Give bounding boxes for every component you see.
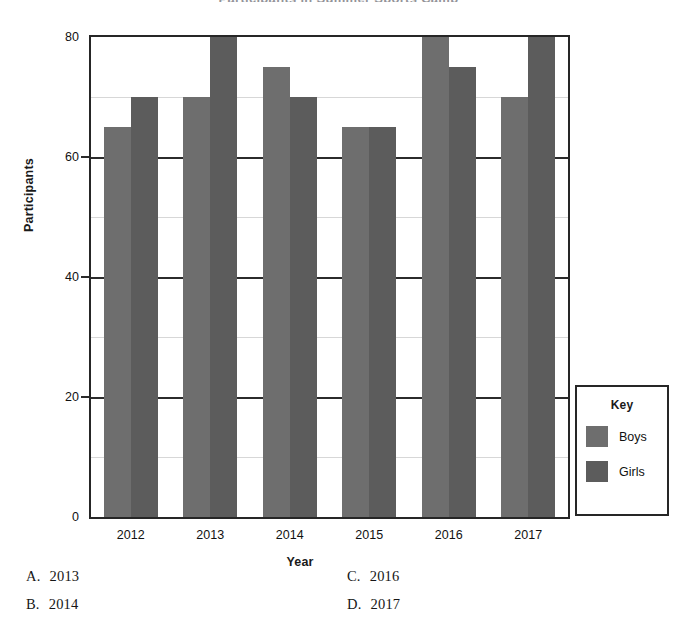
y-tick-mark bbox=[81, 396, 89, 398]
answer-option-b[interactable]: B.2014 bbox=[26, 596, 79, 613]
gridline-minor bbox=[91, 217, 568, 218]
bar-boys-2013 bbox=[183, 97, 210, 517]
answer-option-c-letter: C. bbox=[347, 568, 361, 584]
legend-item-boys: Boys bbox=[577, 426, 667, 447]
x-tick-label: 2017 bbox=[489, 528, 569, 542]
legend-swatch-girls bbox=[586, 461, 608, 482]
bar-girls-2017 bbox=[528, 37, 555, 517]
y-tick-label: 20 bbox=[49, 390, 79, 404]
plot-area bbox=[89, 35, 570, 519]
answer-option-a-letter: A. bbox=[26, 568, 41, 584]
x-tick-label: 2014 bbox=[250, 528, 330, 542]
legend-label-boys: Boys bbox=[619, 430, 647, 444]
legend-title: Key bbox=[577, 398, 667, 412]
x-tick-label: 2013 bbox=[171, 528, 251, 542]
gridline-major bbox=[91, 157, 568, 159]
gridline-major bbox=[91, 277, 568, 279]
bar-boys-2012 bbox=[104, 127, 131, 517]
gridline-major bbox=[91, 397, 568, 399]
answer-option-a[interactable]: A.2013 bbox=[26, 568, 79, 585]
bar-girls-2013 bbox=[210, 37, 237, 517]
chart-title-cropped: Participants in Summer Sports Camp bbox=[0, 0, 677, 2]
bar-girls-2014 bbox=[290, 97, 317, 517]
x-tick-label: 2016 bbox=[409, 528, 489, 542]
answer-options: A.2013 B.2014 C.2016 D.2017 bbox=[0, 568, 677, 638]
gridline-minor bbox=[91, 97, 568, 98]
bar-boys-2014 bbox=[263, 67, 290, 517]
bar-boys-2015 bbox=[342, 127, 369, 517]
answer-option-b-letter: B. bbox=[26, 596, 40, 612]
bar-girls-2012 bbox=[131, 97, 158, 517]
answer-option-d-letter: D. bbox=[347, 596, 362, 612]
y-tick-label: 40 bbox=[49, 270, 79, 284]
legend-swatch-boys bbox=[586, 426, 608, 447]
answer-option-d[interactable]: D.2017 bbox=[347, 596, 400, 613]
gridline-minor bbox=[91, 337, 568, 338]
y-tick-mark bbox=[81, 276, 89, 278]
x-tick-label: 2015 bbox=[330, 528, 410, 542]
bar-boys-2017 bbox=[501, 97, 528, 517]
bar-boys-2016 bbox=[422, 37, 449, 517]
legend-box: Key Boys Girls bbox=[575, 385, 669, 516]
answer-option-c-text: 2016 bbox=[370, 568, 400, 584]
answer-option-a-text: 2013 bbox=[50, 568, 80, 584]
legend-item-girls: Girls bbox=[577, 461, 667, 482]
x-tick-label: 2012 bbox=[91, 528, 171, 542]
y-axis-label: Participants bbox=[22, 158, 36, 232]
plot-inner bbox=[91, 37, 568, 517]
y-tick-label: 60 bbox=[49, 150, 79, 164]
bar-girls-2015 bbox=[369, 127, 396, 517]
legend-label-girls: Girls bbox=[619, 465, 645, 479]
bar-girls-2016 bbox=[449, 67, 476, 517]
y-tick-label: 80 bbox=[49, 30, 79, 44]
answer-option-b-text: 2014 bbox=[49, 596, 79, 612]
answer-option-c[interactable]: C.2016 bbox=[347, 568, 400, 585]
bar-chart-figure: Participants in Summer Sports Camp Parti… bbox=[0, 0, 677, 638]
gridline-minor bbox=[91, 457, 568, 458]
x-axis-label: Year bbox=[0, 555, 600, 569]
y-tick-mark bbox=[81, 156, 89, 158]
answer-option-d-text: 2017 bbox=[371, 596, 401, 612]
y-tick-label: 0 bbox=[49, 510, 79, 524]
